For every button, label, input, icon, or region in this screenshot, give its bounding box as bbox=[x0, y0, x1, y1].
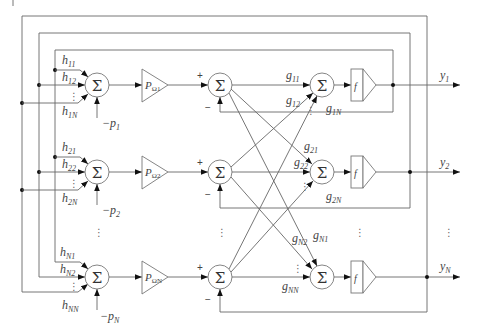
input-h11 bbox=[55, 70, 88, 77]
label-g21: g21 bbox=[304, 139, 318, 155]
vdots: ⋮ bbox=[444, 227, 454, 238]
label-g22: g22 bbox=[294, 155, 308, 171]
label-hN1: hN1 bbox=[60, 245, 75, 261]
label-h22: h22 bbox=[62, 157, 76, 173]
label-hNN: hNN bbox=[62, 298, 79, 314]
minus-sign: − bbox=[205, 294, 211, 305]
label-bias: −p1 bbox=[102, 116, 120, 132]
input-h21 bbox=[55, 157, 88, 164]
label-gNN: gNN bbox=[282, 279, 299, 295]
plus-sign: + bbox=[197, 262, 203, 273]
label-g2N: g2N bbox=[326, 189, 342, 205]
vdots: ⋮ bbox=[217, 227, 227, 238]
sigma-symbol: Σ bbox=[215, 269, 226, 287]
label-g11: g11 bbox=[286, 68, 299, 84]
function-amplifier bbox=[363, 69, 376, 101]
function-amplifier bbox=[363, 156, 376, 188]
vdots: ⋮ bbox=[69, 178, 79, 189]
junction-dot bbox=[408, 170, 412, 174]
label-bias: −p2 bbox=[102, 203, 120, 219]
sigma-symbol: Σ bbox=[317, 269, 328, 287]
vdots: ⋮ bbox=[69, 91, 79, 102]
sigma-symbol: Σ bbox=[92, 164, 103, 182]
function-block bbox=[351, 156, 363, 188]
sigma-symbol: Σ bbox=[317, 164, 328, 182]
arrow-g12 bbox=[231, 93, 313, 167]
label-output: y1 bbox=[439, 68, 449, 84]
function-block bbox=[351, 261, 363, 293]
function-block bbox=[351, 69, 363, 101]
sigma-symbol: Σ bbox=[317, 77, 328, 95]
label-output: y2 bbox=[439, 155, 449, 171]
row-N: ⋮ hN1 hN2 hNN Σ −pN PΩN + Σ − gN1 gN2 gN… bbox=[22, 228, 460, 325]
label-h11: h11 bbox=[62, 53, 75, 69]
row-1: ⋮ h11 h12 h1N Σ −p1 PΩ1 + Σ − g11 g12 g1… bbox=[20, 53, 460, 132]
plus-sign: + bbox=[197, 157, 203, 168]
label-output: yN bbox=[439, 259, 451, 275]
label-g1N: g1N bbox=[326, 101, 342, 117]
label-hN2: hN2 bbox=[60, 262, 75, 278]
arrow-gN1 bbox=[229, 93, 317, 266]
plus-sign: + bbox=[197, 70, 203, 81]
vdots: ⋮ bbox=[293, 263, 303, 274]
arrow-g2N bbox=[231, 181, 313, 272]
label-gN1: gN1 bbox=[313, 228, 328, 244]
function-amplifier bbox=[363, 261, 376, 293]
feedback-loop-yN bbox=[22, 16, 427, 292]
sigma-symbol: Σ bbox=[215, 77, 226, 95]
vdots: ⋮ bbox=[355, 227, 365, 238]
label-h2N: h2N bbox=[62, 191, 78, 207]
minus-sign: − bbox=[205, 102, 211, 113]
sigma-symbol: Σ bbox=[215, 164, 226, 182]
label-bias: −pN bbox=[100, 309, 120, 325]
sigma-symbol: Σ bbox=[92, 269, 103, 287]
row-2: ⋮ h21 h22 h2N Σ −p2 PΩ2 + Σ − g21 g22 g2… bbox=[20, 139, 460, 219]
vdots: ⋮ bbox=[69, 281, 79, 292]
label-h12: h12 bbox=[62, 70, 76, 86]
label-gN2: gN2 bbox=[292, 231, 307, 247]
junction-dot bbox=[391, 83, 395, 87]
block-diagram: ⋮ h11 h12 h1N Σ −p1 PΩ1 + Σ − g11 g12 g1… bbox=[0, 0, 479, 334]
label-h1N: h1N bbox=[62, 104, 78, 120]
vdots: ⋮ bbox=[94, 227, 104, 238]
minus-sign: − bbox=[205, 189, 211, 200]
label-h21: h21 bbox=[62, 140, 76, 156]
sigma-symbol: Σ bbox=[92, 77, 103, 95]
junction-dot bbox=[425, 275, 429, 279]
